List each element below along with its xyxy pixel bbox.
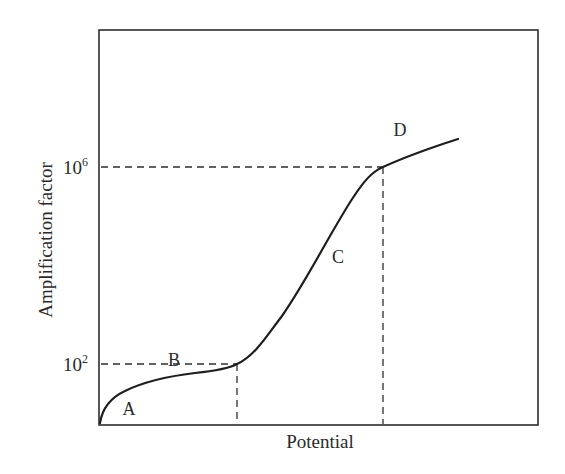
region-label-d: D bbox=[394, 120, 407, 140]
chart-svg: 102 106 A B C D Potential Amplification … bbox=[0, 0, 565, 474]
y-tick-1e2: 102 bbox=[63, 352, 88, 375]
x-axis-label: Potential bbox=[286, 431, 354, 452]
amplification-curve bbox=[100, 139, 458, 423]
y-axis-label: Amplification factor bbox=[35, 162, 56, 318]
region-label-c: C bbox=[332, 247, 344, 267]
chart: 102 106 A B C D Potential Amplification … bbox=[0, 0, 565, 474]
region-label-a: A bbox=[123, 399, 136, 419]
region-label-b: B bbox=[168, 350, 180, 370]
plot-frame bbox=[99, 30, 538, 425]
y-tick-1e6: 106 bbox=[63, 155, 88, 178]
